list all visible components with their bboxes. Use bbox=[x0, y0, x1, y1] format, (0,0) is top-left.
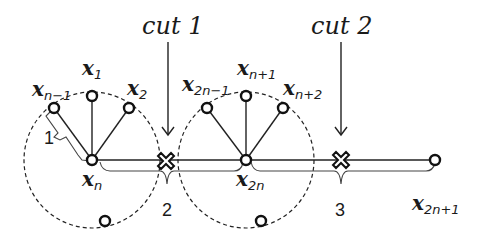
node-x-n+1 bbox=[241, 91, 251, 101]
edge-x2n-x2n-1 bbox=[207, 108, 246, 160]
cut-2-label: cut 2 bbox=[311, 12, 372, 40]
cut-1-label: cut 1 bbox=[142, 12, 203, 40]
label-x-1: x1 bbox=[81, 56, 102, 82]
node-x-2n+1 bbox=[430, 155, 440, 165]
node-cluster-2-bottom bbox=[256, 216, 266, 226]
segment-1-label: 1 bbox=[44, 128, 54, 148]
node-x-n+2 bbox=[278, 103, 288, 113]
node-cluster-1-bottom bbox=[100, 216, 110, 226]
segment-2-label: 2 bbox=[162, 200, 172, 220]
label-x-2n+1: x2n+1 bbox=[411, 191, 460, 217]
label-x-n-1: xn−1 bbox=[31, 77, 71, 103]
label-x-2: x2 bbox=[126, 76, 147, 102]
edge-xn-xn-1 bbox=[54, 108, 92, 160]
node-x-2n-1 bbox=[202, 103, 212, 113]
label-x-n+1: xn+1 bbox=[236, 56, 276, 82]
star-chain-diagram: cut 1 cut 2 1 2 3 xn−1 x1 x2 xn x2n−1 xn… bbox=[0, 0, 478, 242]
node-x-n bbox=[87, 155, 97, 165]
segment-3-label: 3 bbox=[335, 200, 345, 220]
node-x-1 bbox=[87, 91, 97, 101]
label-x-n: xn bbox=[81, 167, 102, 193]
edge-xn-x2 bbox=[92, 108, 129, 160]
edge-x2n-xn+2 bbox=[246, 108, 283, 160]
label-x-2n-1: x2n−1 bbox=[181, 72, 230, 98]
node-x-2 bbox=[124, 103, 134, 113]
node-x-n-1 bbox=[49, 103, 59, 113]
node-x-2n bbox=[241, 155, 251, 165]
label-x-n+2: xn+2 bbox=[282, 76, 322, 102]
